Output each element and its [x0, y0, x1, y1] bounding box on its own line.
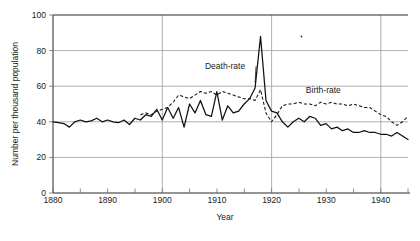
xtick-label-1900: 1900	[153, 195, 172, 205]
birth-rate-label: Birth-rate	[306, 85, 341, 95]
y-axis-title: Number per thousand population	[10, 42, 20, 166]
xtick-label-1920: 1920	[262, 195, 281, 205]
ytick-label-20: 20	[37, 152, 47, 162]
ytick-label-100: 100	[32, 10, 46, 20]
ytick-label-40: 40	[37, 117, 47, 127]
xtick-label-1940: 1940	[371, 195, 390, 205]
xtick-label-1890: 1890	[98, 195, 117, 205]
series-line-birth-rate	[140, 90, 408, 126]
death-rate-label: Death-rate	[205, 61, 245, 71]
x-axis-ticks: 1880 1890 1900 1910 1920 1930 1940	[44, 189, 408, 206]
series-line-death-rate	[53, 36, 408, 139]
ytick-label-80: 80	[37, 46, 47, 56]
y-axis-ticks: 0 20 40 60 80 100	[32, 10, 53, 198]
xtick-label-1910: 1910	[208, 195, 227, 205]
ytick-label-60: 60	[37, 81, 47, 91]
annotation-death-rate: Death-rate	[205, 61, 256, 82]
population-rates-chart: 0 20 40 60 80 100 1880 1890 1900 1910 19…	[0, 0, 420, 241]
axes-spines	[53, 15, 410, 193]
page-speck-mark	[301, 36, 303, 38]
x-axis-title: Year	[216, 212, 233, 222]
xtick-label-1880: 1880	[44, 195, 63, 205]
xtick-label-1930: 1930	[317, 195, 336, 205]
annotation-birth-rate: Birth-rate	[306, 85, 341, 95]
